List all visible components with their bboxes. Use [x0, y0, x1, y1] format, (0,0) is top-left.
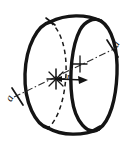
- radius-label: r: [67, 70, 72, 82]
- diagram-background: [0, 0, 130, 151]
- cylindrical-disk-diagram: a a r: [0, 0, 130, 151]
- diagram-canvas: a a r: [0, 0, 130, 151]
